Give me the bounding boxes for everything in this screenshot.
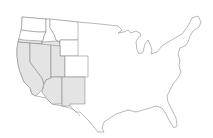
state-washington bbox=[21, 17, 46, 32]
state-wyoming bbox=[60, 40, 78, 56]
state-colorado bbox=[65, 56, 88, 77]
state-new-mexico bbox=[62, 77, 85, 106]
us-map bbox=[0, 0, 213, 138]
